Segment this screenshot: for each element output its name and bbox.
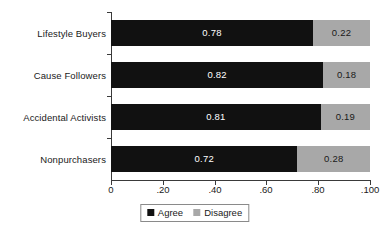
x-tick-label-3: .60 xyxy=(259,184,272,195)
y-axis-tick-3 xyxy=(107,138,111,139)
x-axis-line xyxy=(111,180,371,181)
bar-row: 0.810.19 xyxy=(111,104,370,130)
x-tick-label-2: .40 xyxy=(208,184,221,195)
bar-value-label-disagree: 0.28 xyxy=(324,154,343,164)
y-axis-category-labels: Lifestyle Buyers Cause Followers Acciden… xyxy=(0,12,106,180)
legend-swatch-agree-icon xyxy=(147,209,154,216)
legend-label-agree: Agree xyxy=(158,207,183,218)
x-tick-label-5: .100 xyxy=(361,184,380,195)
y-axis-tick-1 xyxy=(107,54,111,55)
y-axis-label-2: Accidental Activists xyxy=(0,112,106,123)
bar-value-label-disagree: 0.19 xyxy=(336,112,355,122)
plot-area: 0.780.220.820.180.810.190.720.28 xyxy=(111,12,370,180)
bar-value-label-disagree: 0.22 xyxy=(332,28,351,38)
y-axis-tick-2 xyxy=(107,96,111,97)
y-axis-label-0: Lifestyle Buyers xyxy=(0,28,106,39)
x-axis-tick-labels: 0 .20 .40 .60 .80 .100 xyxy=(111,184,371,198)
bar-segment-agree[interactable]: 0.72 xyxy=(111,146,297,172)
bar-row: 0.780.22 xyxy=(111,20,370,46)
bar-value-label-agree: 0.78 xyxy=(202,28,221,38)
y-axis-label-3: Nonpurchasers xyxy=(0,154,106,165)
bar-segment-agree[interactable]: 0.78 xyxy=(111,20,313,46)
legend-item-disagree[interactable]: Disagree xyxy=(193,207,242,218)
bar-segment-disagree[interactable]: 0.19 xyxy=(321,104,370,130)
bar-row: 0.720.28 xyxy=(111,146,370,172)
bar-segment-agree[interactable]: 0.82 xyxy=(111,62,323,88)
chart-legend: Agree Disagree xyxy=(140,204,249,222)
legend-item-agree[interactable]: Agree xyxy=(147,207,183,218)
bar-value-label-agree: 0.82 xyxy=(208,70,227,80)
bar-value-label-disagree: 0.18 xyxy=(337,70,356,80)
bar-row: 0.820.18 xyxy=(111,62,370,88)
y-axis-tick-0 xyxy=(107,12,111,13)
bar-value-label-agree: 0.72 xyxy=(195,154,214,164)
bar-segment-disagree[interactable]: 0.22 xyxy=(313,20,370,46)
x-tick-label-0: 0 xyxy=(108,184,113,195)
legend-swatch-disagree-icon xyxy=(193,209,200,216)
bar-segment-agree[interactable]: 0.81 xyxy=(111,104,321,130)
legend-label-disagree: Disagree xyxy=(204,207,242,218)
y-axis-label-1: Cause Followers xyxy=(0,70,106,81)
bar-value-label-agree: 0.81 xyxy=(206,112,225,122)
stacked-bar-chart: Lifestyle Buyers Cause Followers Acciden… xyxy=(0,0,389,231)
x-tick-label-1: .20 xyxy=(156,184,169,195)
bar-segment-disagree[interactable]: 0.28 xyxy=(297,146,370,172)
x-tick-label-4: .80 xyxy=(311,184,324,195)
bar-segment-disagree[interactable]: 0.18 xyxy=(323,62,370,88)
